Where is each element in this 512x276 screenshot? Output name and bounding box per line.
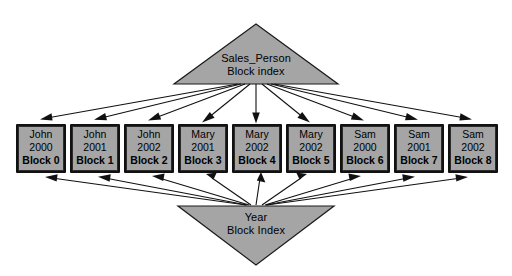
block-3-label: Mary 2001 Block 3: [179, 128, 227, 167]
block-1-label: John 2001 Block 1: [71, 128, 119, 167]
top-index-arrow-block-3: [202, 84, 250, 122]
block-4-name: Mary: [233, 128, 281, 141]
block-1-year: 2001: [71, 141, 119, 154]
block-1-id: Block 1: [71, 154, 119, 167]
top-index-arrow-block-5: [262, 84, 310, 122]
top-index-arrow-block-1: [94, 84, 241, 120]
sales-person-index-line1: Sales_Person: [176, 52, 336, 65]
block-5-name: Mary: [287, 128, 335, 141]
block-8-id: Block 8: [449, 154, 497, 167]
block-0-name: John: [17, 128, 65, 141]
block-4-year: 2002: [233, 141, 281, 154]
diagram-canvas: Sales_Person Block index Year Block Inde…: [0, 0, 512, 276]
top-index-arrow-block-4: [252, 84, 260, 124]
top-index-arrow-group: [40, 84, 472, 124]
top-index-arrow-block-6: [267, 84, 364, 121]
block-4-label: Mary 2002 Block 4: [233, 128, 281, 167]
block-7-year: 2001: [395, 141, 443, 154]
bottom-index-arrow-block-1: [98, 174, 247, 205]
block-7-label: Sam 2001 Block 7: [395, 128, 443, 167]
block-6-id: Block 6: [341, 154, 389, 167]
block-3-name: Mary: [179, 128, 227, 141]
bottom-index-arrow-block-4: [256, 172, 265, 205]
block-6-year: 2000: [341, 141, 389, 154]
block-5-label: Mary 2002 Block 5: [287, 128, 335, 167]
top-index-arrow-block-2: [148, 84, 245, 121]
block-8-name: Sam: [449, 128, 497, 141]
block-2-id: Block 2: [125, 154, 173, 167]
block-3-id: Block 3: [179, 154, 227, 167]
sales-person-index-label: Sales_Person Block index: [176, 52, 336, 78]
bottom-index-arrow-block-8: [267, 174, 468, 205]
block-6-name: Sam: [341, 128, 389, 141]
block-5-year: 2002: [287, 141, 335, 154]
bottom-index-arrow-group: [45, 172, 468, 205]
top-index-arrow-block-7: [271, 84, 418, 120]
sales-person-index-line2: Block index: [176, 65, 336, 78]
block-7-name: Sam: [395, 128, 443, 141]
block-0-id: Block 0: [17, 154, 65, 167]
year-index-label: Year Block Index: [176, 211, 336, 237]
bottom-index-arrow-block-7: [266, 174, 415, 205]
year-index-line2: Block Index: [176, 224, 336, 237]
block-7-id: Block 7: [395, 154, 443, 167]
block-0-year: 2000: [17, 141, 65, 154]
block-0-label: John 2000 Block 0: [17, 128, 65, 167]
block-8-label: Sam 2002 Block 8: [449, 128, 497, 167]
block-3-year: 2001: [179, 141, 227, 154]
block-8-year: 2002: [449, 141, 497, 154]
block-6-label: Sam 2000 Block 6: [341, 128, 389, 167]
block-4-id: Block 4: [233, 154, 281, 167]
block-2-year: 2002: [125, 141, 173, 154]
block-2-label: John 2002 Block 2: [125, 128, 173, 167]
block-5-id: Block 5: [287, 154, 335, 167]
block-2-name: John: [125, 128, 173, 141]
bottom-index-arrow-block-0: [45, 174, 246, 205]
year-index-line1: Year: [176, 211, 336, 224]
block-1-name: John: [71, 128, 119, 141]
